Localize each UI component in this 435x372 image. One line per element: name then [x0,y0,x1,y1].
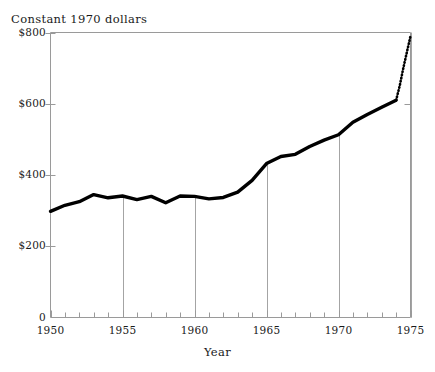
x-tick-label-1960: 1960 [172,324,218,336]
tick-mark-layer [46,34,412,318]
y-tick-label-0: 0 [2,311,46,323]
y-axis-title: Constant 1970 dollars [11,12,147,26]
axis-frame-layer [51,33,411,318]
x-tick-label-1965: 1965 [244,324,290,336]
x-tick-label-1950: 1950 [28,324,74,336]
y-tick-label-400: $400 [2,168,46,180]
x-tick-label-1970: 1970 [316,324,362,336]
plot-canvas [0,0,435,372]
gridline-layer [124,33,412,318]
series-projected [396,36,410,100]
data-series-layer [51,36,411,211]
y-tick-label-600: $600 [2,97,46,109]
chart-figure: Constant 1970 dollars Year 0$200$400$600… [0,0,435,372]
y-tick-label-200: $200 [2,239,46,251]
y-tick-label-800: $800 [2,26,46,38]
x-axis-title: Year [0,345,435,359]
x-tick-label-1975: 1975 [388,324,434,336]
series-actual [51,100,397,211]
x-tick-label-1955: 1955 [100,324,146,336]
